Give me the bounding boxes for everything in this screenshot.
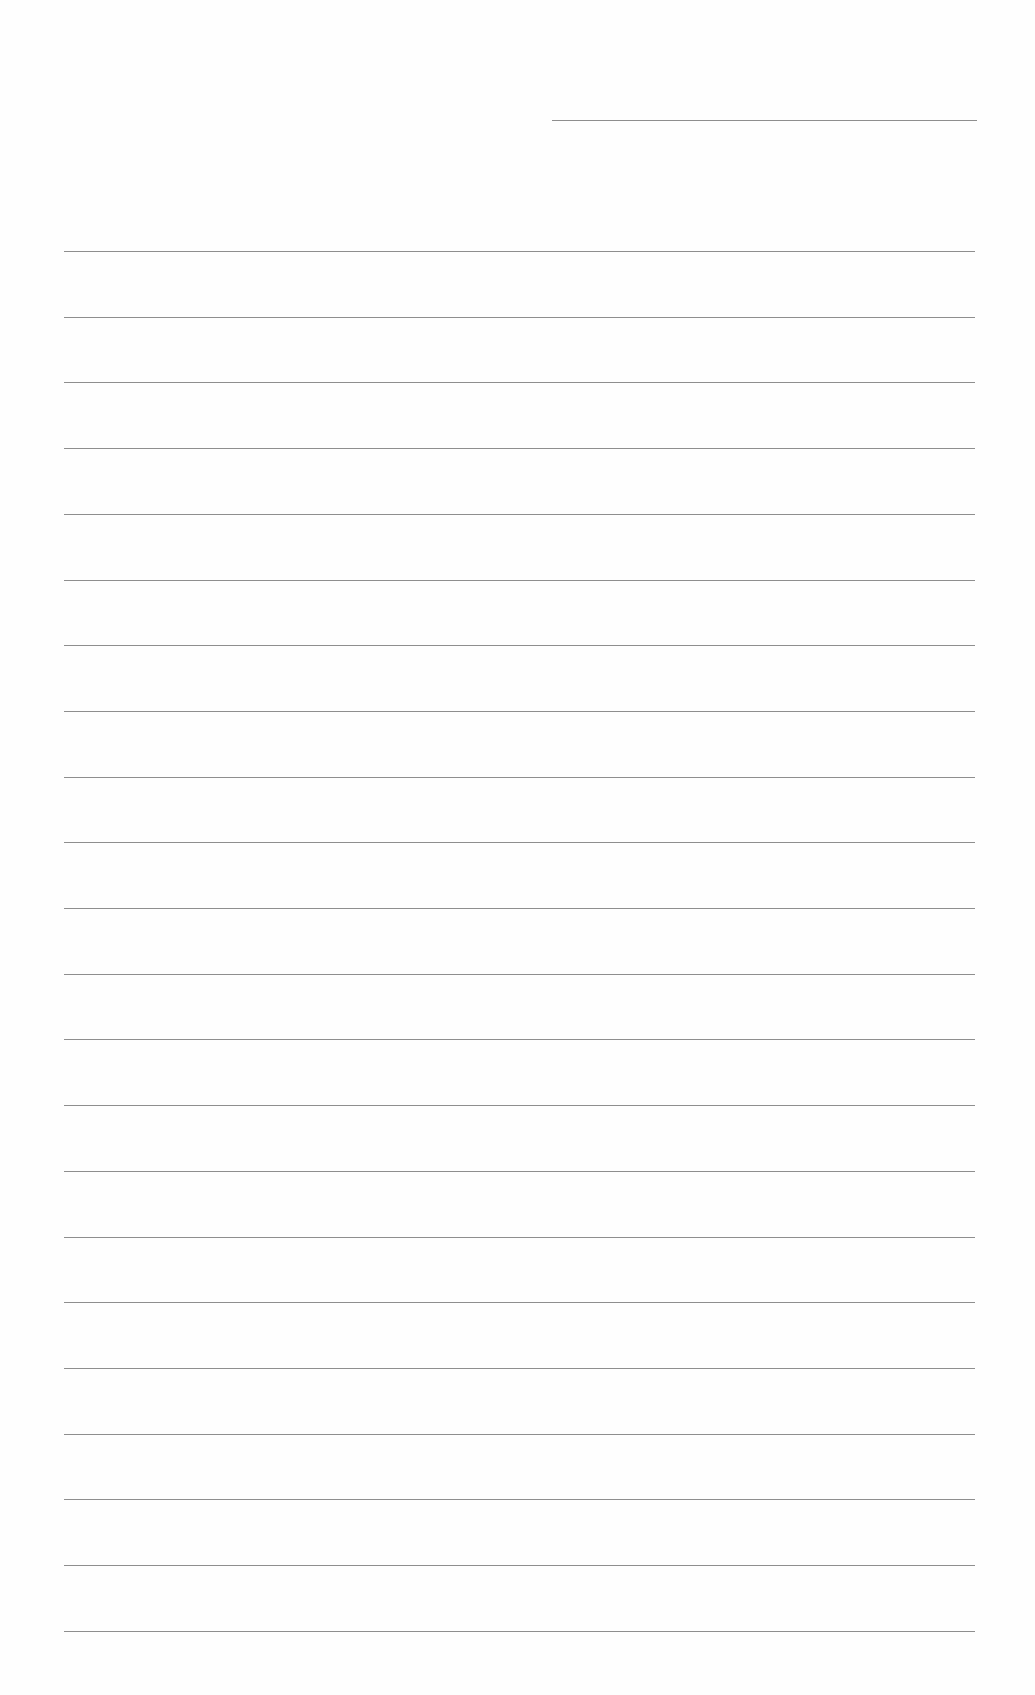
writing-line xyxy=(64,1105,975,1106)
writing-line xyxy=(64,1499,975,1500)
writing-line xyxy=(64,842,975,843)
writing-line xyxy=(64,1434,975,1435)
writing-line xyxy=(64,382,975,383)
writing-line xyxy=(64,1171,975,1172)
writing-line xyxy=(64,777,975,778)
writing-line xyxy=(64,580,975,581)
writing-line xyxy=(64,974,975,975)
writing-line xyxy=(64,448,975,449)
writing-line xyxy=(64,645,975,646)
writing-line xyxy=(64,1368,975,1369)
writing-line xyxy=(64,251,975,252)
writing-line xyxy=(64,1302,975,1303)
writing-line xyxy=(64,317,975,318)
lined-page xyxy=(0,0,1035,1695)
writing-line xyxy=(64,1631,975,1632)
header-signature-line xyxy=(552,120,977,121)
writing-line xyxy=(64,711,975,712)
writing-line xyxy=(64,514,975,515)
writing-line xyxy=(64,1237,975,1238)
writing-line xyxy=(64,1565,975,1566)
writing-line xyxy=(64,1039,975,1040)
writing-line xyxy=(64,908,975,909)
